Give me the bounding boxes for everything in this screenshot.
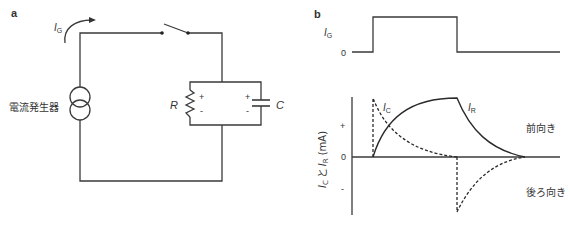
switch-contact-left xyxy=(160,31,164,35)
panel-b-label: b xyxy=(314,8,321,20)
zero-tick-label: 0 xyxy=(341,152,346,162)
panel-a-circuit xyxy=(65,20,270,181)
plus-tick-label: + xyxy=(340,121,345,131)
ir-curve xyxy=(373,98,525,157)
forward-label: 前向き xyxy=(526,122,556,134)
minus-tick-label: - xyxy=(341,184,344,194)
capacitor-plus: + xyxy=(245,92,250,102)
left-wire xyxy=(80,33,162,87)
resistor-minus: - xyxy=(200,106,203,116)
bottom-wire xyxy=(80,120,222,181)
ir-curve-label: IR xyxy=(468,102,476,114)
switch-contact-right xyxy=(186,31,190,35)
ig-zero-label: 0 xyxy=(341,48,346,58)
panel-a-label: a xyxy=(11,7,18,19)
resistor-icon xyxy=(186,90,194,117)
current-direction-arrow-icon xyxy=(65,20,92,43)
resistor-label: R xyxy=(170,99,178,111)
y-axis-label: ICとIR(mA) xyxy=(317,131,330,188)
ig-pulse-trace xyxy=(352,17,560,52)
current-source-icon-upper xyxy=(70,87,90,107)
resistor-plus: + xyxy=(199,92,204,102)
ic-curve-negative xyxy=(457,157,525,212)
figure: a IG 電流発生器 R + - + - C b IG 0 + 0 - ICとI… xyxy=(0,0,570,225)
capacitor-label: C xyxy=(276,99,284,111)
ic-curve-label: IC xyxy=(383,102,391,114)
switch-blade xyxy=(164,24,188,33)
top-right-wire xyxy=(188,33,222,82)
arrow-head-icon xyxy=(89,17,96,23)
current-label: IG xyxy=(54,22,62,34)
backward-label: 後ろ向き xyxy=(526,186,566,198)
ig-trace-label: IG xyxy=(324,27,332,39)
current-source-icon-lower xyxy=(70,100,90,120)
current-source-label: 電流発生器 xyxy=(9,101,59,113)
capacitor-minus: - xyxy=(246,106,249,116)
